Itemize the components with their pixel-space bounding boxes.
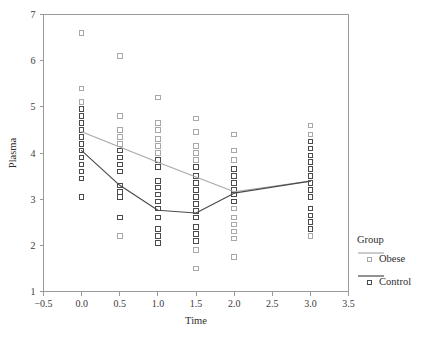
data-point-marker [194,238,199,243]
data-point-marker [308,139,313,144]
y-tick-label: 5 [31,101,36,112]
data-point-marker [308,188,313,193]
data-point-marker [156,144,161,149]
x-axis-title: Time [185,315,207,326]
data-point-marker [79,195,84,200]
data-point-marker [194,231,199,236]
data-point-marker [79,114,84,119]
data-point-marker [79,31,84,36]
data-point-marker [194,165,199,170]
y-tick-label: 3 [31,194,36,205]
data-point-marker [194,201,199,206]
plot-frame [44,15,349,292]
x-tick-label: 1.0 [152,298,165,309]
data-point-marker [117,148,122,153]
data-point-marker [156,199,161,204]
data-point-marker [232,174,237,179]
data-point-marker [79,195,84,200]
data-point-marker [194,248,199,253]
data-point-marker [232,181,237,186]
data-point-marker [117,54,122,59]
legend-entry-obese[interactable]: Obese [358,253,406,264]
y-tick-label: 7 [31,9,36,20]
y-tick-label: 2 [31,240,36,251]
data-point-marker [308,227,313,232]
x-tick-label: 0.5 [114,298,127,309]
data-point-marker [117,155,122,160]
data-point-marker [308,195,313,200]
data-point-marker [194,181,199,186]
legend-entry-control[interactable]: Control [358,276,411,287]
data-point-marker [79,155,84,160]
data-point-marker [117,141,122,146]
data-point-marker [232,148,237,153]
data-point-marker [194,151,199,156]
data-point-marker [156,192,161,197]
data-point-marker [194,116,199,121]
legend-marker-control [367,280,372,285]
data-point-marker [194,266,199,271]
data-point-marker [308,234,313,239]
x-tick-label: 0.0 [75,298,88,309]
legend-title: Group [357,234,384,245]
data-point-marker [194,201,199,206]
data-point-marker [308,160,313,165]
data-point-marker [117,169,122,174]
data-point-marker [232,255,237,260]
data-point-marker [117,190,122,195]
data-point-marker [194,188,199,193]
data-point-marker [156,178,161,183]
x-tick-label: 2.0 [228,298,241,309]
data-point-marker [156,185,161,190]
data-point-marker [156,178,161,183]
legend-marker-obese [367,257,372,262]
data-point-marker [79,155,84,160]
data-point-marker [308,123,313,128]
x-tick-label: 3.0 [304,298,317,309]
data-point-marker [232,167,237,172]
data-point-marker [117,169,122,174]
data-point-marker [156,185,161,190]
data-point-marker [156,199,161,204]
scatter-group-control [79,107,312,245]
data-point-marker [156,192,161,197]
data-point-marker [79,162,84,167]
data-point-marker [79,107,84,112]
data-point-marker [156,121,161,126]
data-point-marker [308,132,313,137]
data-point-marker [156,234,161,239]
data-point-marker [232,199,237,204]
data-point-marker [117,135,122,140]
data-point-marker [156,215,161,220]
data-point-marker [156,241,161,246]
data-point-marker [232,206,237,211]
data-point-marker [117,148,122,153]
y-tick-label: 4 [31,148,36,159]
data-point-marker [308,153,313,158]
data-point-marker [194,225,199,230]
data-point-marker [117,155,122,160]
data-point-marker [156,227,161,232]
data-point-marker [308,167,313,172]
data-point-marker [308,195,313,200]
plasma-time-scatter-figure: −0.50.00.51.01.52.02.53.03.5 1234567 Tim… [0,0,421,337]
data-point-marker [117,190,122,195]
data-point-marker [232,236,237,241]
data-point-marker [79,100,84,105]
data-point-marker [232,167,237,172]
data-point-marker [308,213,313,218]
data-point-marker [232,174,237,179]
data-point-marker [308,174,313,179]
data-point-marker [308,146,313,151]
data-point-marker [194,231,199,236]
data-point-marker [79,176,84,181]
data-point-marker [79,141,84,146]
data-point-marker [117,195,122,200]
data-point-marker [79,135,84,140]
data-point-marker [232,229,237,234]
y-tick-label: 1 [31,286,36,297]
data-point-marker [308,146,313,151]
data-point-marker [156,234,161,239]
data-point-marker [117,162,122,167]
plot-area-border [44,15,349,292]
